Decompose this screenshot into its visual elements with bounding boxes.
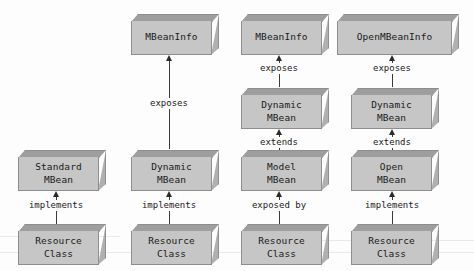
node-label-line2: MBean	[267, 174, 296, 186]
node-label-line2: Class	[157, 248, 186, 260]
node-label-line2: Class	[44, 248, 73, 260]
arrow-head-implements-3	[389, 191, 395, 197]
node-openmbeaninfo[interactable]: OpenMBeanInfo	[337, 14, 459, 55]
node-label-line2: Class	[267, 248, 296, 260]
node-model-mbean[interactable]: Model MBean	[241, 150, 329, 191]
edge-label-extends-2: extends	[371, 137, 413, 148]
box-front-face: Dynamic MBean	[351, 95, 432, 129]
node-resource-class-4[interactable]: Resource Class	[351, 224, 439, 265]
node-mbeaninfo-1[interactable]: MBeanInfo	[131, 14, 219, 55]
arrow-head-exposes-1	[166, 55, 172, 61]
edge-label-implements-1: implements	[27, 200, 85, 211]
node-label-line1: Model	[267, 161, 296, 173]
node-label-line2: MBean	[44, 174, 73, 186]
node-label-line1: Dynamic	[261, 99, 302, 111]
box-front-face: OpenMBeanInfo	[337, 21, 452, 55]
box-front-face: Open MBean	[351, 157, 432, 191]
arrow-head-exposes-2	[276, 55, 282, 61]
box-front-face: MBeanInfo	[131, 21, 212, 55]
node-label-line2: MBean	[377, 112, 406, 124]
edge-label-exposes-2: exposes	[258, 63, 300, 74]
node-label-line1: Resource	[368, 235, 415, 247]
node-label-line1: Resource	[258, 235, 305, 247]
edge-label-extends-1: extends	[258, 137, 300, 148]
box-front-face: Model MBean	[241, 157, 322, 191]
node-label-line1: Resource	[148, 235, 195, 247]
edge-label-exposes-1: exposes	[148, 98, 190, 109]
node-label-line2: MBean	[377, 174, 406, 186]
node-label-line2: Class	[377, 248, 406, 260]
arrow-head-extends-1	[276, 129, 282, 135]
node-label-line1: OpenMBeanInfo	[357, 31, 433, 43]
edge-label-implements-2: implements	[140, 200, 198, 211]
node-label-line1: MBeanInfo	[255, 31, 307, 43]
arrow-head-exposed-by-1	[276, 191, 282, 197]
node-label-line1: Dynamic	[151, 161, 192, 173]
node-label-line1: Resource	[35, 235, 82, 247]
box-front-face: MBeanInfo	[241, 21, 322, 55]
node-dynamic-mbean-1[interactable]: Dynamic MBean	[131, 150, 219, 191]
arrow-head-extends-2	[389, 129, 395, 135]
node-resource-class-3[interactable]: Resource Class	[241, 224, 329, 265]
node-resource-class-1[interactable]: Resource Class	[18, 224, 106, 265]
edge-label-exposes-3: exposes	[371, 63, 413, 74]
box-front-face: Dynamic MBean	[241, 95, 322, 129]
arrow-head-implements-2	[166, 191, 172, 197]
box-front-face: Standard MBean	[18, 157, 99, 191]
edge-label-implements-3: implements	[363, 200, 421, 211]
box-front-face: Resource Class	[241, 231, 322, 265]
box-front-face: Resource Class	[18, 231, 99, 265]
edge-label-exposed-by-1: exposed by	[250, 200, 308, 211]
node-dynamic-mbean-2[interactable]: Dynamic MBean	[241, 88, 329, 129]
box-front-face: Dynamic MBean	[131, 157, 212, 191]
node-label-line1: Open	[380, 161, 403, 173]
node-standard-mbean[interactable]: Standard MBean	[18, 150, 106, 191]
node-label-line1: MBeanInfo	[145, 31, 197, 43]
node-open-mbean[interactable]: Open MBean	[351, 150, 439, 191]
node-mbeaninfo-2[interactable]: MBeanInfo	[241, 14, 329, 55]
arrow-head-implements-1	[53, 191, 59, 197]
arrow-head-exposes-3	[389, 55, 395, 61]
box-front-face: Resource Class	[131, 231, 212, 265]
box-front-face: Resource Class	[351, 231, 432, 265]
mbean-relationship-diagram: Standard MBean implements Resource Class…	[0, 0, 474, 271]
node-dynamic-mbean-3[interactable]: Dynamic MBean	[351, 88, 439, 129]
node-label-line1: Standard	[35, 161, 82, 173]
node-label-line1: Dynamic	[371, 99, 412, 111]
node-label-line2: MBean	[267, 112, 296, 124]
node-label-line2: MBean	[157, 174, 186, 186]
node-resource-class-2[interactable]: Resource Class	[131, 224, 219, 265]
